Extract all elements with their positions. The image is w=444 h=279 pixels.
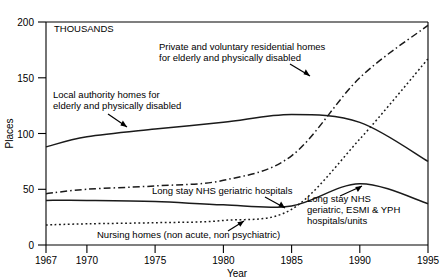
annotation-local-authority-line-1: Local authority homes for xyxy=(53,89,160,100)
y-axis-title: Places xyxy=(4,118,15,148)
annotation-long-stay-nhs-esmi-yph-line-2: geriatric, ESMI & YPH xyxy=(307,204,400,215)
annotation-local-authority-line-2: elderly and physically disabled xyxy=(53,100,181,111)
y-tick-label-150: 150 xyxy=(17,73,34,84)
x-tick-label-1975: 1975 xyxy=(144,255,167,266)
y-tick-label-100: 100 xyxy=(17,129,34,140)
annotation-nursing-homes-line-1: Nursing homes (non acute, non psychiatri… xyxy=(97,229,280,240)
x-tick-label-1980: 1980 xyxy=(212,255,235,266)
annotation-private-voluntary-line-2: for elderly and physically disabled xyxy=(159,52,301,63)
x-tick-label-1995: 1995 xyxy=(417,255,440,266)
annotation-long-stay-nhs-geriatric-line-1: Long stay NHS geriatric hospitals xyxy=(152,185,293,196)
x-tick-label-1985: 1985 xyxy=(280,255,303,266)
line-chart: 200 150 100 50 0 Places 1967 1970 1975 1… xyxy=(0,0,444,279)
x-tick-label-1967: 1967 xyxy=(35,255,58,266)
x-tick-label-1970: 1970 xyxy=(76,255,99,266)
y-tick-label-200: 200 xyxy=(17,17,34,28)
annotation-private-voluntary-line-1: Private and voluntary residential homes xyxy=(159,41,326,52)
x-axis-title: Year xyxy=(227,268,248,279)
units-label: THOUSANDS xyxy=(54,23,114,34)
y-tick-label-0: 0 xyxy=(28,240,34,251)
annotation-long-stay-nhs-esmi-yph-line-3: hospitals/units xyxy=(307,215,367,226)
chart-container: 200 150 100 50 0 Places 1967 1970 1975 1… xyxy=(0,0,444,279)
y-tick-label-50: 50 xyxy=(23,184,35,195)
x-tick-label-1990: 1990 xyxy=(349,255,372,266)
annotation-long-stay-nhs-esmi-yph-line-1: Long stay NHS xyxy=(307,193,371,204)
